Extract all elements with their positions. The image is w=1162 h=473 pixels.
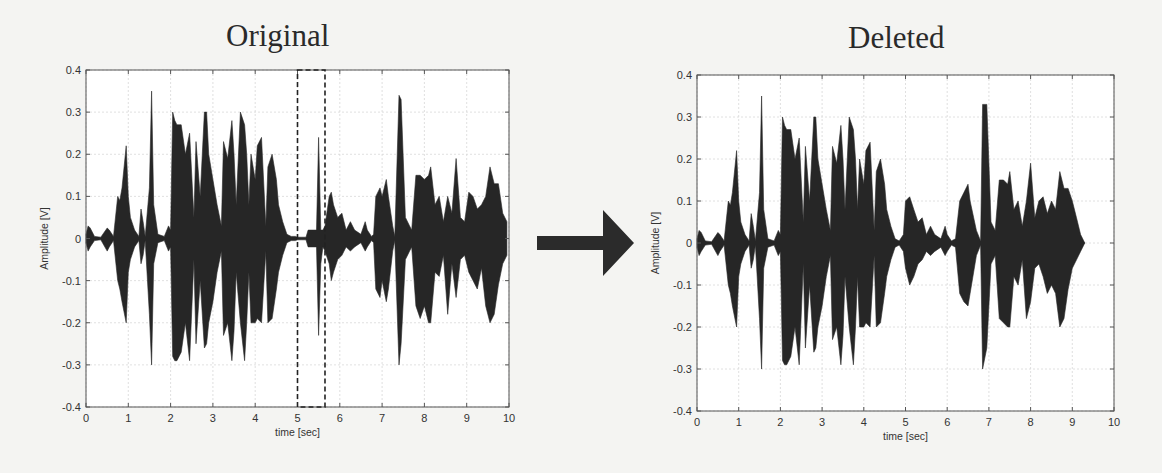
x-tick-label: 1: [125, 412, 131, 424]
x-tick-label: 0: [694, 416, 700, 428]
x-tick-label: 10: [1108, 416, 1120, 428]
y-tick-label: -0.3: [62, 359, 81, 371]
x-axis-label: time [sec]: [275, 426, 320, 438]
y-tick-label: 0.1: [66, 190, 81, 202]
x-tick-label: 9: [464, 412, 470, 424]
y-tick-label: 0.3: [66, 106, 81, 118]
x-tick-label: 7: [986, 416, 992, 428]
plot-deleted: 0123456789100.40.30.20.10-0.1-0.2-0.3-0.…: [649, 69, 1120, 442]
arrow-icon: [537, 210, 634, 276]
y-tick-label: -0.2: [673, 321, 692, 333]
x-axis-label: time [sec]: [883, 430, 928, 442]
x-tick-label: 0: [83, 412, 89, 424]
x-tick-label: 4: [861, 416, 867, 428]
x-tick-label: 5: [902, 416, 908, 428]
y-tick-label: 0.3: [677, 111, 692, 123]
x-tick-label: 3: [210, 412, 216, 424]
x-tick-label: 7: [379, 412, 385, 424]
y-tick-label: 0.2: [677, 153, 692, 165]
y-tick-label: -0.1: [62, 275, 81, 287]
y-axis-label: Amplitude [V]: [38, 207, 50, 270]
y-tick-label: 0.4: [66, 64, 81, 76]
x-tick-label: 3: [819, 416, 825, 428]
x-tick-label: 5: [294, 412, 300, 424]
y-tick-label: -0.1: [673, 279, 692, 291]
x-tick-label: 9: [1069, 416, 1075, 428]
y-tick-label: 0: [75, 233, 81, 245]
y-tick-label: -0.4: [673, 405, 692, 417]
plot-original: 0123456789100.40.30.20.10-0.1-0.2-0.3-0.…: [38, 64, 515, 438]
x-tick-label: 1: [736, 416, 742, 428]
x-tick-label: 6: [337, 412, 343, 424]
y-axis-label: Amplitude [V]: [649, 212, 661, 275]
figure-canvas: 0123456789100.40.30.20.10-0.1-0.2-0.3-0.…: [0, 0, 1162, 473]
y-tick-label: 0.2: [66, 148, 81, 160]
y-tick-label: 0.1: [677, 195, 692, 207]
y-tick-label: -0.3: [673, 363, 692, 375]
y-tick-label: -0.2: [62, 317, 81, 329]
x-tick-label: 8: [421, 412, 427, 424]
x-tick-label: 4: [252, 412, 258, 424]
y-tick-label: 0.4: [677, 69, 692, 81]
x-tick-label: 2: [168, 412, 174, 424]
x-tick-label: 10: [503, 412, 515, 424]
x-tick-label: 8: [1028, 416, 1034, 428]
x-tick-label: 6: [944, 416, 950, 428]
y-tick-label: 0: [686, 237, 692, 249]
x-tick-label: 2: [777, 416, 783, 428]
y-tick-label: -0.4: [62, 401, 81, 413]
